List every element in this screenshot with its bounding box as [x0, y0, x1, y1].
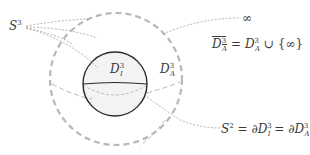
d-outer-sup: 3 — [170, 62, 174, 70]
outer-equator-right — [147, 82, 180, 93]
closure-lhs-sup: 3 — [222, 37, 226, 45]
closure-lhs-sub: A — [222, 45, 227, 53]
label-s3: S3 — [9, 20, 22, 32]
closure-lhs: D3A — [212, 37, 227, 51]
d-inner-sub: I — [120, 70, 123, 78]
closure-rhs-sup: 3 — [255, 37, 259, 45]
infinity-symbol: ∞ — [242, 11, 252, 25]
infinity-set: {∞} — [278, 37, 303, 51]
d-inner-base: D — [110, 62, 120, 76]
closure-rhs-base: D — [245, 37, 255, 51]
s2-leader — [147, 97, 220, 128]
boundary-equation: S2 = ∂D3I = ∂D3A — [221, 123, 310, 135]
label-infinity: ∞ — [242, 12, 252, 24]
s2-base: S — [221, 122, 229, 136]
boundary-p2-sup: 3 — [304, 122, 308, 130]
d-inner-sup: 3 — [120, 62, 124, 70]
label-d-inner: D3I — [110, 63, 123, 75]
closure-eq-sign: = — [231, 37, 241, 51]
s2-leader-lower — [140, 120, 165, 145]
s3-leaders — [26, 19, 98, 68]
s2-sup: 2 — [229, 122, 233, 130]
union-symbol: ∪ — [264, 37, 274, 51]
boundary-eq-sign-1: = — [238, 122, 248, 136]
boundary-p2-sub: A — [305, 130, 310, 138]
closure-rhs-sub: A — [255, 45, 260, 53]
closure-equation: D3A = D3A ∪ {∞} — [212, 38, 303, 50]
d-outer-sub: A — [170, 70, 175, 78]
boundary-partial-2: ∂D — [288, 122, 304, 136]
boundary-p1-sup: 3 — [267, 122, 271, 130]
d-outer-base: D — [160, 62, 170, 76]
closure-lhs-base: D — [212, 37, 222, 51]
infinity-leader — [163, 18, 240, 34]
s3-sup: 3 — [17, 19, 21, 27]
boundary-eq-sign-2: = — [274, 122, 284, 136]
s3-base: S — [9, 19, 17, 33]
boundary-partial-1: ∂D — [251, 122, 267, 136]
label-d-outer: D3A — [160, 63, 175, 75]
